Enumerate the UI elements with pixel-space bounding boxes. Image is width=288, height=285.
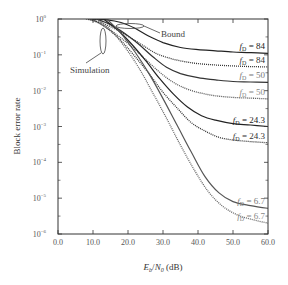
curve-labels-group: fD = 84fD = 84fD = 50fD = 50fD = 24.3fD … — [233, 41, 266, 222]
x-axis-label: Eb/N0 (dB) — [143, 262, 183, 273]
simulation-annotation-label: Simulation — [70, 65, 110, 75]
block-error-rate-chart: Simulation Bound 0.010.020.030.040.050.0… — [0, 0, 288, 285]
curve-label-sim-fd-84: fD = 84 — [240, 55, 266, 66]
y-axis-label: Block error rate — [12, 98, 22, 155]
x-tick-label: 40.0 — [191, 238, 205, 247]
x-tick-label: 30.0 — [156, 238, 170, 247]
x-label-unit: (dB) — [164, 262, 183, 272]
simulation-annotation-ellipse — [100, 28, 106, 54]
bound-annotation-label: Bound — [161, 29, 186, 39]
y-tick-label: 10−2 — [33, 86, 47, 96]
curve-label-sim-fd-6_7: fD = 6.7 — [237, 211, 265, 222]
curve-label-bound-fd-84: fD = 84 — [240, 41, 266, 52]
x-tick-label: 20.0 — [121, 238, 135, 247]
series-bound-fd-24_3 — [104, 19, 269, 127]
simulation-annotation-leader — [86, 53, 101, 63]
curve-label-sim-fd-50: fD = 50 — [240, 87, 266, 98]
y-tick-label: 100 — [36, 14, 47, 24]
y-tick-label: 10−6 — [33, 229, 47, 239]
curve-label-sim-fd-24_3: fD = 24.3 — [233, 131, 266, 142]
annotations-group: Simulation Bound — [70, 24, 186, 76]
bound-annotation-leader — [144, 26, 160, 33]
curve-label-bound-fd-24_3: fD = 24.3 — [233, 115, 266, 126]
y-tick-label: 10−3 — [33, 122, 47, 132]
curve-label-bound-fd-6_7: fD = 6.7 — [237, 196, 265, 207]
curve-label-bound-fd-50: fD = 50 — [240, 70, 266, 81]
y-tick-label: 10−1 — [33, 50, 47, 60]
y-tick-label: 10−4 — [33, 157, 47, 167]
x-tick-label: 0.0 — [53, 238, 63, 247]
x-tick-label: 50.0 — [226, 238, 240, 247]
x-tick-label: 10.0 — [86, 238, 100, 247]
y-ticks-group: 10010−110−210−310−410−510−6 — [33, 14, 268, 239]
x-tick-label: 60.0 — [261, 238, 275, 247]
y-tick-label: 10−5 — [33, 193, 47, 203]
